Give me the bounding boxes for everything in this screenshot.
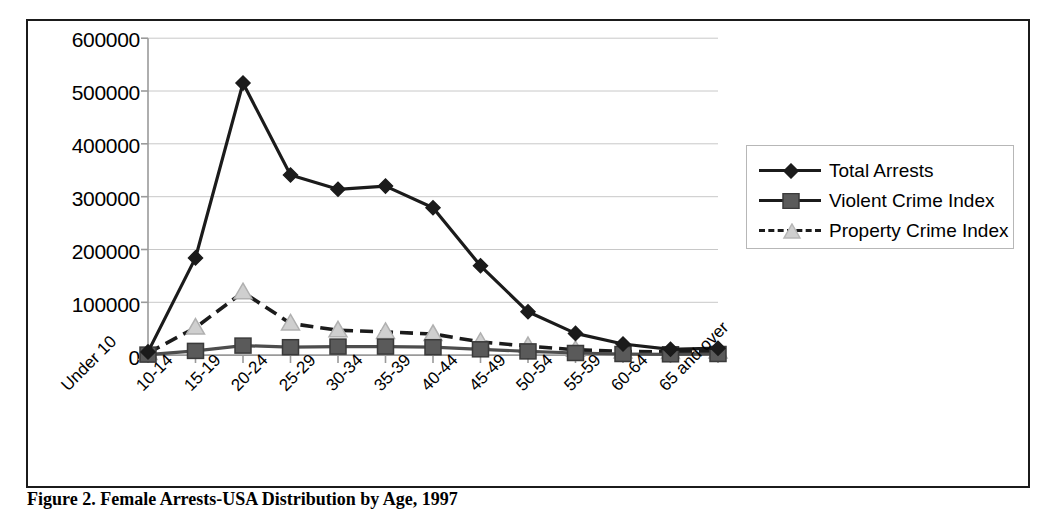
- legend-item-property-crime-index: Property Crime Index: [747, 215, 1013, 245]
- triangle-marker-icon: [759, 219, 821, 241]
- chart-legend: Total Arrests Violent Crime Index Proper…: [746, 145, 1014, 249]
- x-tick-label: 15-19: [181, 351, 224, 394]
- x-tick-label: 40-44: [418, 351, 461, 394]
- legend-label: Property Crime Index: [829, 221, 1009, 240]
- legend-item-total-arrests: Total Arrests: [747, 155, 1013, 185]
- x-tick-label: 35-39: [371, 351, 414, 394]
- x-tick-label: Under 10: [58, 333, 119, 394]
- x-tick-label: 50-54: [513, 351, 556, 394]
- square-marker-icon: [759, 189, 821, 211]
- diamond-marker-icon: [759, 159, 821, 181]
- x-tick-label: 65 and over: [656, 319, 732, 395]
- legend-label: Total Arrests: [829, 161, 934, 180]
- x-tick-label: 10-14: [133, 351, 176, 394]
- x-tick-label: 55-59: [561, 351, 604, 394]
- x-tick-label: 30-34: [323, 351, 366, 394]
- x-tick-label: 60-64: [608, 351, 651, 394]
- figure-caption: Figure 2. Female Arrests-USA Distributio…: [27, 489, 458, 509]
- legend-item-violent-crime-index: Violent Crime Index: [747, 185, 1013, 215]
- x-tick-label: 25-29: [276, 351, 319, 394]
- legend-label: Violent Crime Index: [829, 191, 994, 210]
- x-tick-label: 20-24: [228, 351, 271, 394]
- x-tick-label: 45-49: [466, 351, 509, 394]
